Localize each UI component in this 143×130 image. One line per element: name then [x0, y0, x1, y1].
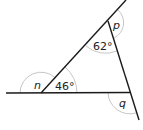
label-n: n	[34, 79, 41, 92]
label-62: 62°	[93, 40, 113, 53]
diagonal-line	[41, 0, 126, 93]
label-p: p	[112, 19, 120, 32]
label-46: 46°	[55, 80, 75, 93]
label-q: q	[119, 97, 126, 110]
angle-diagram: n 46° 62° p q	[0, 0, 143, 130]
